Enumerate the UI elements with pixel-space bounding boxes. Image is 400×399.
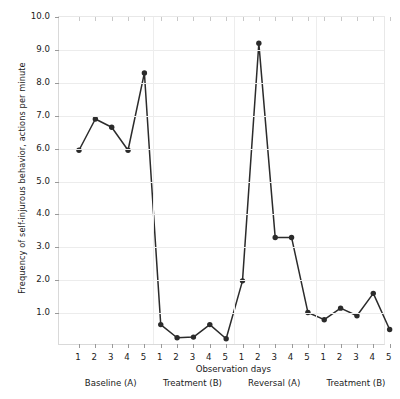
y-tick-label: 4.0 [10, 209, 50, 218]
y-tick-label: 5.0 [10, 177, 50, 186]
x-tick-mark [357, 344, 358, 348]
x-tick-mark [341, 344, 342, 348]
gridline-horizontal [59, 116, 384, 117]
x-tick-mark [177, 344, 178, 348]
y-tick-mark [55, 83, 59, 84]
y-tick-mark [55, 116, 59, 117]
y-tick-label: 7.0 [10, 111, 50, 120]
data-point-marker [371, 291, 376, 296]
phase-divider [316, 17, 317, 344]
y-tick-label: 9.0 [10, 45, 50, 54]
x-tick-mark [112, 344, 113, 348]
x-tick-mark-top [177, 17, 178, 21]
gridline-horizontal [59, 280, 384, 281]
x-tick-mark-top [308, 17, 309, 21]
x-tick-mark [144, 344, 145, 348]
y-tick-label: 2.0 [10, 275, 50, 284]
x-tick-mark [193, 344, 194, 348]
gridline-horizontal [59, 313, 384, 314]
y-tick-mark [55, 280, 59, 281]
phase-divider [153, 17, 154, 344]
y-tick-mark [55, 214, 59, 215]
x-tick-label: 5 [379, 353, 399, 362]
data-point-marker [322, 317, 327, 322]
x-tick-mark-top [357, 17, 358, 21]
y-tick-label: 10.0 [10, 12, 50, 21]
phase-label: Treatment (B) [306, 379, 400, 388]
gridline-horizontal [59, 247, 384, 248]
y-tick-mark [55, 182, 59, 183]
x-tick-mark-top [128, 17, 129, 21]
phase-divider [234, 17, 235, 344]
x-tick-mark-top [324, 17, 325, 21]
y-tick-label: 1.0 [10, 308, 50, 317]
data-point-marker [158, 322, 163, 327]
x-tick-mark [390, 344, 391, 348]
gridline-horizontal [59, 214, 384, 215]
y-tick-mark [55, 149, 59, 150]
chart-figure: Frequency of self-injurous behavior, act… [0, 0, 400, 399]
data-point-marker [256, 41, 261, 46]
y-tick-label: 8.0 [10, 78, 50, 87]
x-tick-mark-top [275, 17, 276, 21]
data-point-marker [93, 116, 98, 121]
x-tick-mark-top [390, 17, 391, 21]
data-point-marker [109, 125, 114, 130]
x-tick-mark [79, 344, 80, 348]
y-tick-mark [55, 17, 59, 18]
x-tick-mark-top [112, 17, 113, 21]
x-tick-mark-top [259, 17, 260, 21]
gridline-horizontal [59, 50, 384, 51]
data-point-marker [289, 235, 294, 240]
y-tick-mark [55, 313, 59, 314]
x-tick-mark [308, 344, 309, 348]
x-tick-mark-top [144, 17, 145, 21]
y-tick-label: 6.0 [10, 144, 50, 153]
gridline-horizontal [59, 182, 384, 183]
x-tick-mark-top [226, 17, 227, 21]
gridline-horizontal [59, 149, 384, 150]
data-point-marker [387, 327, 392, 332]
x-tick-mark [324, 344, 325, 348]
data-point-marker [273, 235, 278, 240]
x-tick-mark-top [341, 17, 342, 21]
x-tick-mark-top [243, 17, 244, 21]
x-tick-mark-top [193, 17, 194, 21]
x-tick-mark-top [210, 17, 211, 21]
data-point-marker [191, 334, 196, 339]
data-point-marker [223, 336, 228, 341]
x-tick-mark-top [79, 17, 80, 21]
data-point-marker [338, 305, 343, 310]
y-tick-mark [55, 50, 59, 51]
y-tick-label: 3.0 [10, 242, 50, 251]
x-tick-mark-top [161, 17, 162, 21]
x-axis-title: Observation days [173, 365, 293, 374]
x-tick-mark [292, 344, 293, 348]
x-tick-mark-top [292, 17, 293, 21]
x-tick-mark-top [373, 17, 374, 21]
x-tick-mark [210, 344, 211, 348]
x-tick-mark [161, 344, 162, 348]
data-point-marker [207, 322, 212, 327]
x-tick-mark [95, 344, 96, 348]
x-tick-mark [128, 344, 129, 348]
plot-area [58, 16, 385, 345]
x-tick-mark [243, 344, 244, 348]
x-tick-mark [226, 344, 227, 348]
data-point-marker [174, 335, 179, 340]
gridline-horizontal [59, 83, 384, 84]
x-tick-mark [259, 344, 260, 348]
x-tick-mark-top [95, 17, 96, 21]
x-tick-mark [373, 344, 374, 348]
data-point-marker [142, 70, 147, 75]
x-tick-mark [275, 344, 276, 348]
y-tick-mark [55, 247, 59, 248]
